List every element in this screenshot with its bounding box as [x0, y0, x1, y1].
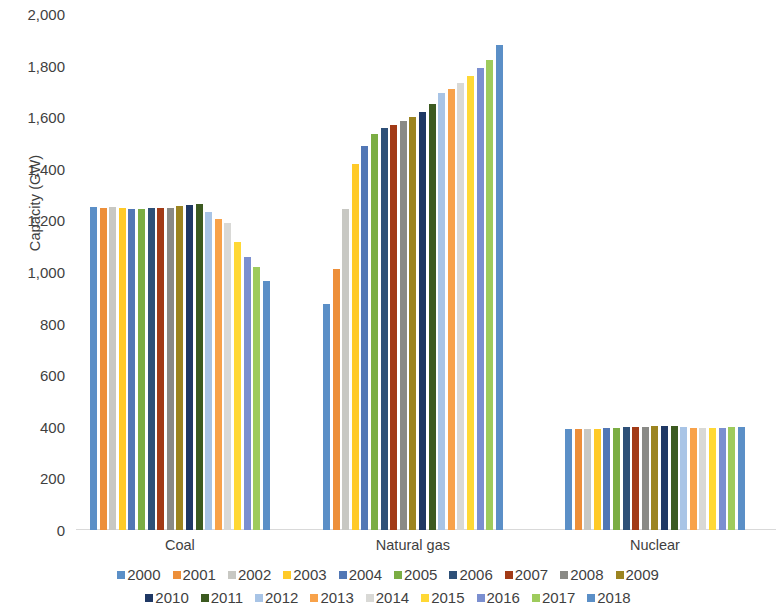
- bar[interactable]: [128, 209, 135, 530]
- legend-item-2014[interactable]: 2014: [366, 590, 409, 605]
- bar[interactable]: [148, 208, 155, 530]
- bar[interactable]: [234, 242, 241, 530]
- legend-item-2002[interactable]: 2002: [228, 567, 271, 582]
- bar[interactable]: [613, 428, 620, 530]
- bars-container: [323, 14, 505, 530]
- legend-item-2018[interactable]: 2018: [587, 590, 630, 605]
- bar[interactable]: [323, 304, 330, 530]
- y-axis-tick-label: 200: [40, 471, 65, 486]
- legend-swatch-icon: [587, 594, 595, 602]
- legend-label: 2013: [320, 590, 353, 605]
- bar[interactable]: [728, 427, 735, 530]
- legend-label: 2002: [238, 567, 271, 582]
- bar[interactable]: [215, 219, 222, 530]
- bar[interactable]: [651, 426, 658, 530]
- legend-item-2012[interactable]: 2012: [255, 590, 298, 605]
- bar[interactable]: [496, 45, 503, 530]
- bar[interactable]: [263, 281, 270, 530]
- y-axis-tick-labels: 2,0001,8001,6001,4001,2001,0008006004002…: [0, 0, 72, 540]
- legend-item-2003[interactable]: 2003: [283, 567, 326, 582]
- legend-swatch-icon: [339, 571, 347, 579]
- legend-item-2013[interactable]: 2013: [310, 590, 353, 605]
- legend-item-2008[interactable]: 2008: [560, 567, 603, 582]
- bar[interactable]: [352, 164, 359, 530]
- legend-item-2006[interactable]: 2006: [449, 567, 492, 582]
- bar[interactable]: [167, 208, 174, 531]
- bar[interactable]: [176, 206, 183, 530]
- bar[interactable]: [448, 89, 455, 530]
- legend-item-2015[interactable]: 2015: [421, 590, 464, 605]
- bar[interactable]: [738, 427, 745, 530]
- bar[interactable]: [467, 76, 474, 530]
- legend-swatch-icon: [117, 571, 125, 579]
- bar[interactable]: [244, 257, 251, 530]
- bar[interactable]: [438, 93, 445, 530]
- chart-legend: 2000200120022003200420052006200720082009…: [0, 563, 776, 609]
- bar[interactable]: [477, 68, 484, 530]
- bar[interactable]: [100, 208, 107, 531]
- bar[interactable]: [361, 146, 368, 530]
- legend-label: 2015: [431, 590, 464, 605]
- bar[interactable]: [719, 428, 726, 530]
- bar[interactable]: [157, 208, 164, 530]
- legend-label: 2018: [597, 590, 630, 605]
- bar[interactable]: [390, 125, 397, 530]
- bar[interactable]: [690, 428, 697, 530]
- bar[interactable]: [409, 117, 416, 530]
- bar[interactable]: [381, 128, 388, 530]
- legend-item-2011[interactable]: 2011: [201, 590, 243, 605]
- bar[interactable]: [119, 208, 126, 531]
- legend-item-2007[interactable]: 2007: [505, 567, 548, 582]
- bar[interactable]: [486, 60, 493, 530]
- bar[interactable]: [224, 223, 231, 530]
- bar[interactable]: [138, 209, 145, 530]
- legend-label: 2006: [459, 567, 492, 582]
- bar[interactable]: [575, 429, 582, 530]
- bar[interactable]: [584, 429, 591, 530]
- bar[interactable]: [709, 428, 716, 530]
- bar[interactable]: [90, 207, 97, 530]
- legend-swatch-icon: [145, 594, 153, 602]
- legend-item-2009[interactable]: 2009: [616, 567, 659, 582]
- bar[interactable]: [205, 212, 212, 530]
- category-label-natural-gas: Natural gas: [323, 537, 503, 553]
- legend-item-2000[interactable]: 2000: [117, 567, 160, 582]
- legend-swatch-icon: [505, 571, 513, 579]
- legend-label: 2009: [626, 567, 659, 582]
- bar[interactable]: [186, 205, 193, 530]
- legend-label: 2004: [349, 567, 382, 582]
- bar[interactable]: [661, 426, 668, 530]
- bar[interactable]: [196, 204, 203, 530]
- legend-item-2005[interactable]: 2005: [394, 567, 437, 582]
- bar[interactable]: [333, 269, 340, 530]
- legend-label: 2000: [127, 567, 160, 582]
- bars-container: [90, 14, 272, 530]
- bar[interactable]: [457, 83, 464, 530]
- legend-item-2001[interactable]: 2001: [173, 567, 216, 582]
- bar[interactable]: [632, 427, 639, 530]
- y-axis-tick-label: 1,400: [27, 162, 65, 177]
- bar[interactable]: [699, 428, 706, 530]
- bar[interactable]: [109, 207, 116, 530]
- legend-item-2010[interactable]: 2010: [145, 590, 188, 605]
- legend-label: 2014: [376, 590, 409, 605]
- y-axis-tick-label: 400: [40, 420, 65, 435]
- bar[interactable]: [419, 112, 426, 530]
- bar[interactable]: [342, 209, 349, 530]
- legend-item-2004[interactable]: 2004: [339, 567, 382, 582]
- bar[interactable]: [400, 121, 407, 530]
- bar[interactable]: [253, 267, 260, 530]
- bar[interactable]: [680, 427, 687, 530]
- legend-item-2016[interactable]: 2016: [477, 590, 520, 605]
- bar[interactable]: [671, 426, 678, 530]
- legend-swatch-icon: [477, 594, 485, 602]
- bar[interactable]: [623, 427, 630, 530]
- bar[interactable]: [642, 427, 649, 530]
- legend-label: 2003: [293, 567, 326, 582]
- bar[interactable]: [371, 134, 378, 530]
- legend-item-2017[interactable]: 2017: [532, 590, 575, 605]
- bar[interactable]: [565, 429, 572, 530]
- bar[interactable]: [594, 429, 601, 530]
- bar[interactable]: [429, 104, 436, 530]
- bar[interactable]: [603, 428, 610, 530]
